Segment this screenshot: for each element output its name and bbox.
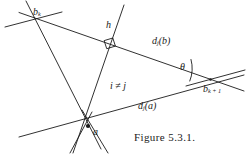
label-condition-i-not-equal-j: i ≠ j [110,81,126,91]
theta-angle-arc [190,60,192,82]
vertex-dot-bk1 [209,78,212,81]
label-angle-theta: θ [180,62,185,72]
label-dja-arg: (a) [145,100,157,111]
label-bk1-subscript: k + 1 [208,87,221,94]
label-vertex-bk: bk [33,7,41,17]
figure-caption: Figure 5.3.1. [134,131,195,143]
label-djb-arg: (b) [159,35,171,46]
label-perpendicular-h: h [106,20,111,30]
figure-container: bk bk + 1 h dj(b) dj(a) i ≠ j θ a Figure… [0,0,248,158]
geometry-diagram [0,0,248,158]
line-perpendicular-h [73,5,124,153]
label-vertex-a: a [93,127,98,137]
label-bk-subscript: k [38,10,41,17]
label-vertex-bk1: bk + 1 [203,84,221,94]
cross-line-at-a-1 [70,112,92,153]
label-segment-djb: dj(b) [152,36,170,46]
label-segment-dja: dj(a) [138,101,156,111]
vertex-dot-a [86,124,90,128]
